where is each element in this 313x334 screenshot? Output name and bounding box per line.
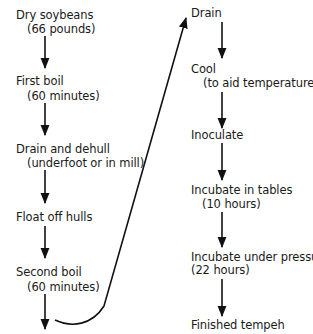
step-incubate-pressure-detail: (22 hours) xyxy=(191,264,250,277)
step-second-boil: Second boil xyxy=(16,266,82,279)
step-drain-dehull-detail: (underfoot or in mill) xyxy=(27,157,144,170)
step-incubate-tables-detail: (10 hours) xyxy=(202,198,261,211)
step-cool-detail: (to aid temperature) xyxy=(203,77,313,90)
step-dry-soybeans-detail: (66 pounds) xyxy=(27,23,95,36)
step-drain: Drain xyxy=(191,7,222,20)
step-second-boil-detail: (60 minutes) xyxy=(27,281,100,294)
step-first-boil: First boil xyxy=(16,75,64,88)
tempeh-process-flowchart: Dry soybeans (66 pounds) First boil (60 … xyxy=(0,0,313,334)
step-first-boil-detail: (60 minutes) xyxy=(27,90,100,103)
step-finished-tempeh: Finished tempeh xyxy=(191,319,285,332)
step-inoculate: Inoculate xyxy=(191,129,243,142)
step-float-off-hulls: Float off hulls xyxy=(16,211,92,224)
step-cool: Cool xyxy=(191,63,216,76)
step-drain-dehull: Drain and dehull xyxy=(16,143,110,156)
step-dry-soybeans: Dry soybeans xyxy=(16,9,93,22)
step-incubate-tables: Incubate in tables xyxy=(191,184,292,197)
